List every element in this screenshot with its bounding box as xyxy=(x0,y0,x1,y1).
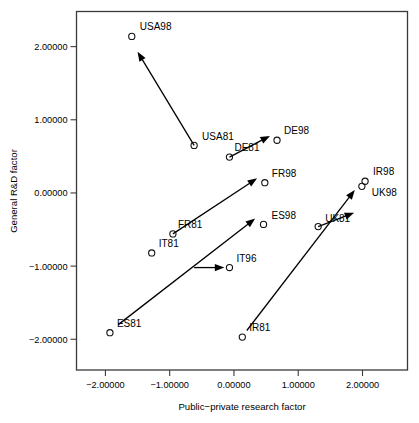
scatter-plot-figure: −2.00000−1.000000.000001.000002.00000 −2… xyxy=(0,0,419,423)
point-label-de81: DE81 xyxy=(234,142,259,153)
point-label-uk81: UK81 xyxy=(325,213,350,224)
x-tick-label: 2.00000 xyxy=(346,380,379,390)
x-tick-label: −1.00000 xyxy=(150,380,189,390)
point-label-usa98: USA98 xyxy=(140,21,172,32)
x-axis-label: Public−private research factor xyxy=(178,401,306,412)
point-label-uk98: UK98 xyxy=(372,187,397,198)
y-tick-label: 1.00000 xyxy=(34,115,67,125)
y-tick-label: 2.00000 xyxy=(34,42,67,52)
plot-canvas: −2.00000−1.000000.000001.000002.00000 −2… xyxy=(0,0,419,423)
point-label-fr98: FR98 xyxy=(272,168,297,179)
x-tick-label: −2.00000 xyxy=(86,380,125,390)
point-label-es98: ES98 xyxy=(272,210,297,221)
point-label-fr81: FR81 xyxy=(178,219,203,230)
point-label-it96: IT96 xyxy=(236,253,256,264)
point-label-de98: DE98 xyxy=(284,125,309,136)
y-tick-label: 0.00000 xyxy=(34,188,67,198)
x-tick-label: 0.00000 xyxy=(217,380,250,390)
point-label-es81: ES81 xyxy=(117,318,142,329)
plot-background xyxy=(0,0,419,423)
point-label-ir81: IR81 xyxy=(249,322,271,333)
y-tick-label: −1.00000 xyxy=(29,262,68,272)
x-tick-label: 1.00000 xyxy=(282,380,315,390)
point-label-usa81: USA81 xyxy=(202,131,234,142)
y-tick-label: −2.00000 xyxy=(29,335,68,345)
y-axis-label: General R&D factor xyxy=(8,148,19,233)
point-label-it81: IT81 xyxy=(159,238,179,249)
point-label-ir98: IR98 xyxy=(373,166,395,177)
